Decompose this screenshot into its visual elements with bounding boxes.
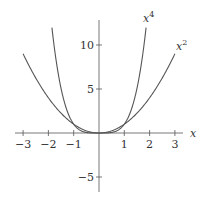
x-tick-label: 3: [171, 138, 178, 151]
x-tick-label: −2: [40, 138, 56, 151]
tick-labels: −3−2−1123−5510x: [15, 39, 197, 184]
y-tick-label: −5: [78, 171, 94, 184]
y-tick-label: 10: [80, 39, 94, 52]
series-labels: x2x4: [143, 10, 187, 53]
x-axis-label: x: [190, 127, 197, 140]
x-tick-label: −1: [66, 138, 82, 151]
series-label-x4: x4: [143, 10, 154, 25]
x-tick-label: 2: [146, 138, 153, 151]
function-plot: −3−2−1123−5510x x2x4: [0, 0, 209, 203]
x-tick-label: −3: [15, 138, 31, 151]
series-label-x2: x2: [176, 38, 187, 53]
x-tick-label: 1: [121, 138, 128, 151]
y-tick-label: 5: [87, 83, 94, 96]
axes: [15, 20, 183, 192]
